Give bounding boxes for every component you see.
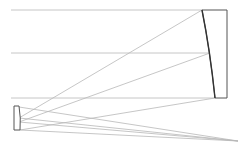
ray-diagram xyxy=(0,0,244,153)
primary-mirror xyxy=(202,10,227,98)
focus-ray-2 xyxy=(19,118,238,141)
reflected-ray-top xyxy=(19,10,202,118)
reflected-ray-bottom xyxy=(20,98,215,130)
secondary-mirror xyxy=(14,106,20,130)
incoming-rays xyxy=(11,10,218,98)
